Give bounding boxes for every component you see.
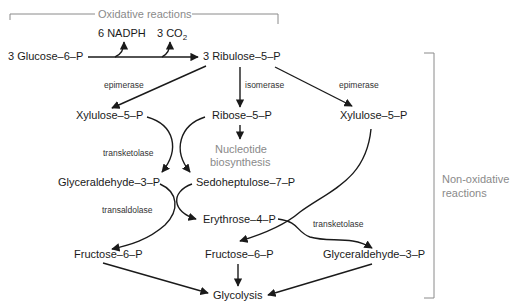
node-ribose-5-p: Ribose–5–P	[212, 109, 272, 121]
enzyme-isomerase: isomerase	[245, 80, 284, 90]
node-erythrose-4-p: Erythrose–4–P	[203, 213, 276, 225]
arrow-co2	[162, 42, 170, 57]
enzyme-epimerase-left: epimerase	[104, 80, 144, 90]
arrow-nadph	[115, 42, 124, 57]
arrow-glyceraldehyde-to-fructose	[112, 184, 175, 249]
enzyme-transketolase-2: transketolase	[313, 219, 364, 229]
pentose-phosphate-diagram: Oxidative reactions Non-oxidative reacti…	[0, 0, 510, 305]
node-ribulose-5-p: 3 Ribulose–5–P	[203, 50, 281, 62]
enzyme-transketolase-1: transketolase	[103, 148, 154, 158]
node-glyceraldehyde-3-p-left: Glyceraldehyde–3–P	[58, 176, 160, 188]
non-oxidative-bracket	[424, 53, 434, 298]
node-glyceraldehyde-3-p-right: Glyceraldehyde–3–P	[323, 248, 425, 260]
arrow-xylulose-to-glyceraldehyde	[147, 117, 173, 172]
arrow-ribose-to-sedoheptulose	[180, 117, 205, 172]
arrow-glyceraldehyde-right-to-glycolysis	[268, 264, 372, 295]
node-nucleotide-line1: Nucleotide	[215, 143, 267, 155]
node-sedoheptulose-7-p: Sedoheptulose–7–P	[196, 176, 295, 188]
node-xylulose-5-p-right: Xylulose–5–P	[340, 109, 407, 121]
enzyme-epimerase-right: epimerase	[339, 80, 379, 90]
node-xylulose-5-p-left: Xylulose–5–P	[76, 109, 143, 121]
node-nadph: 6 NADPH	[98, 27, 146, 39]
node-glucose-6-p: 3 Glucose–6–P	[8, 50, 83, 62]
node-nucleotide-line2: biosynthesis	[210, 156, 271, 168]
non-oxidative-label-line1: Non-oxidative	[442, 173, 509, 185]
enzyme-transaldolase: transaldolase	[102, 205, 153, 215]
node-fructose-6-p-mid: Fructose–6–P	[205, 248, 273, 260]
node-co2: 3 CO2	[157, 27, 188, 42]
non-oxidative-label-line2: reactions	[442, 187, 487, 199]
arrow-sedoheptulose-to-erythrose	[177, 184, 196, 219]
node-fructose-6-p-left: Fructose–6–P	[74, 248, 142, 260]
arrow-fructose-left-to-glycolysis	[103, 263, 208, 293]
oxidative-label: Oxidative reactions	[98, 8, 192, 20]
node-glycolysis: Glycolysis	[213, 289, 263, 301]
